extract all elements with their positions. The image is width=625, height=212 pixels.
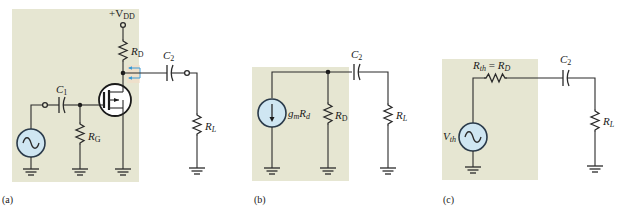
ac-source-icon: [17, 129, 45, 157]
rl-resistor-icon: [591, 109, 599, 132]
c2-label: C2: [351, 48, 362, 62]
mosfet-icon: [99, 84, 131, 116]
circuit-figure: +VDD RD: [0, 0, 625, 212]
ground-icon: [380, 168, 396, 174]
current-source-icon: [258, 99, 286, 127]
c2-label: C2: [163, 49, 174, 63]
caption-c: (c): [443, 194, 454, 206]
rd-label: RD: [130, 45, 144, 59]
output-arrows-icon: [127, 65, 140, 83]
panel-c: Rth = RD Vth C2 RL (c): [442, 53, 615, 206]
rl-label: RL: [602, 115, 615, 129]
rl-label: RL: [204, 120, 217, 134]
rl-resistor-icon: [384, 103, 392, 126]
panel-a: +VDD RD: [2, 7, 217, 206]
panel-b: gmRd RD C2 RL (b): [252, 48, 408, 206]
rl-resistor-icon: [193, 113, 201, 136]
rl-label: RL: [395, 109, 408, 123]
ac-source-icon: [459, 123, 487, 151]
ground-icon: [189, 168, 205, 174]
caption-b: (b): [254, 194, 266, 206]
caption-a: (a): [2, 194, 13, 206]
output-terminal: [185, 71, 190, 76]
ground-icon: [587, 166, 603, 172]
c2-label: C2: [560, 53, 571, 67]
